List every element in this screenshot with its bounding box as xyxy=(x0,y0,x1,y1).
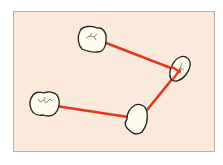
tooth-connection-diagram xyxy=(0,0,223,165)
tooth-upper-left xyxy=(78,26,106,52)
diagram-panel xyxy=(14,12,215,152)
tooth-lower-left xyxy=(30,92,59,116)
